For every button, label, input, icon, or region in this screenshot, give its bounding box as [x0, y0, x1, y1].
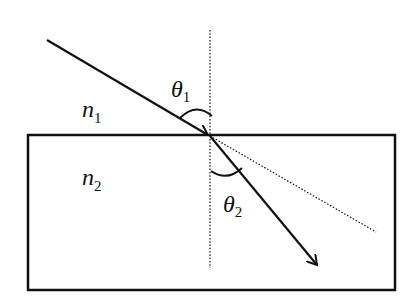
- incident-ray: [47, 40, 208, 135]
- label-n2: n2: [82, 164, 102, 194]
- label-theta1: θ1: [171, 76, 190, 105]
- label-theta2: θ2: [223, 191, 242, 220]
- medium-2-block: [28, 135, 395, 290]
- refraction-diagram: n1 n2 θ1 θ2: [0, 0, 415, 305]
- angle-arc-theta1: [180, 109, 212, 118]
- label-n1: n1: [82, 96, 102, 126]
